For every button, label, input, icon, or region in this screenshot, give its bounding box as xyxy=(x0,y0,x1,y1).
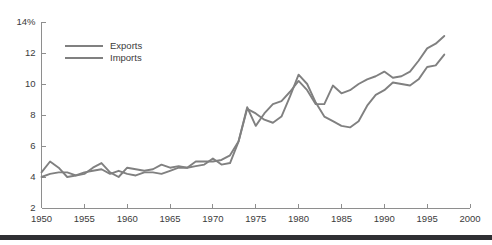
y-tick-label: 4 xyxy=(30,171,35,182)
x-tick-label: 2000 xyxy=(459,213,480,224)
y-tick-label: 10 xyxy=(25,78,36,89)
x-tick-label: 1995 xyxy=(417,213,438,224)
x-tick-label: 1980 xyxy=(288,213,309,224)
x-tick-label: 1950 xyxy=(31,213,52,224)
legend-label-imports: Imports xyxy=(110,52,142,63)
x-tick-label: 1975 xyxy=(245,213,266,224)
line-chart: 2468101214% 1950195519601965197019751980… xyxy=(0,0,492,245)
x-tick-label: 1985 xyxy=(331,213,352,224)
x-tick-label: 1970 xyxy=(202,213,223,224)
x-tick-label: 1965 xyxy=(159,213,180,224)
y-tick-label: 6 xyxy=(30,140,35,151)
legend-label-exports: Exports xyxy=(110,40,142,51)
y-tick-label: 2 xyxy=(30,202,35,213)
bottom-bar xyxy=(0,235,492,240)
x-tick-label: 1990 xyxy=(374,213,395,224)
y-tick-label: 8 xyxy=(30,109,35,120)
y-tick-label: 12 xyxy=(25,47,36,58)
x-tick-label: 1960 xyxy=(117,213,138,224)
chart-figure: 2468101214% 1950195519601965197019751980… xyxy=(0,0,492,245)
y-tick-label: 14% xyxy=(16,16,36,27)
x-tick-label: 1955 xyxy=(74,213,95,224)
